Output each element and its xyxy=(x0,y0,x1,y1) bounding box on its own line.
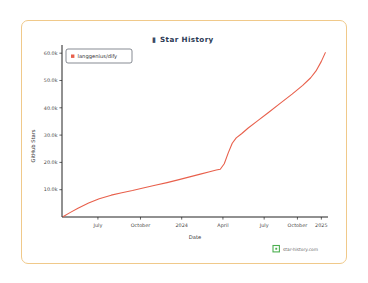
x-tick-label: July xyxy=(259,222,269,229)
watermark-label: star-history.com xyxy=(283,247,318,252)
series-group xyxy=(63,53,325,217)
x-axis-label: Date xyxy=(189,234,201,240)
series-line xyxy=(63,53,325,217)
x-tick-label: 2024 xyxy=(175,222,187,228)
legend-marker-icon xyxy=(71,55,74,58)
y-axis: 10.0k20.0k30.0k40.0k50.0k60.0k GitHub St… xyxy=(30,45,62,217)
y-axis-label: GitHub Stars xyxy=(30,129,36,162)
watermark: star-history.com xyxy=(273,246,318,253)
x-tick-label: October xyxy=(131,222,152,228)
chart-legend[interactable]: langgenius/dify xyxy=(66,49,132,63)
x-tick-label: July xyxy=(93,222,103,229)
x-tick-group: JulyOctober2024AprilJulyOctober2025 xyxy=(93,217,328,229)
x-axis: JulyOctober2024AprilJulyOctober2025 Date xyxy=(62,217,328,240)
y-tick-label: 40.0k xyxy=(44,105,58,111)
y-tick-label: 60.0k xyxy=(44,50,58,56)
star-icon: ▮ xyxy=(152,36,156,44)
x-tick-label: April xyxy=(217,222,228,229)
x-tick-label: October xyxy=(288,222,309,228)
y-tick-label: 20.0k xyxy=(44,159,58,165)
chart-svg: ▮ Star History 10.0k20.0k30.0k40.0k50.0k… xyxy=(22,21,348,265)
star-history-logo-icon xyxy=(273,246,279,252)
y-tick-label: 30.0k xyxy=(44,132,58,138)
star-history-chart-card: ▮ Star History 10.0k20.0k30.0k40.0k50.0k… xyxy=(21,20,347,264)
y-tick-group: 10.0k20.0k30.0k40.0k50.0k60.0k xyxy=(44,50,62,193)
x-tick-label: 2025 xyxy=(315,222,327,228)
plot-area: ▮ Star History 10.0k20.0k30.0k40.0k50.0k… xyxy=(22,21,346,263)
chart-title-group: ▮ Star History xyxy=(152,35,214,44)
y-tick-label: 50.0k xyxy=(44,77,58,83)
page-title: Star History xyxy=(160,35,214,44)
y-tick-label: 10.0k xyxy=(44,186,58,192)
legend-item-label: langgenius/dify xyxy=(78,53,118,60)
